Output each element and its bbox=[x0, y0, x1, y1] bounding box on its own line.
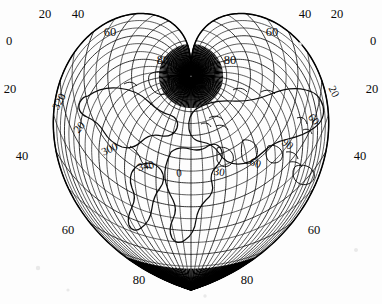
latitude-label-left-6: 40 bbox=[16, 149, 29, 163]
latitude-label-left-7: 60 bbox=[62, 223, 75, 237]
latitude-label-right-8: 80 bbox=[241, 273, 254, 287]
latitude-label-left-3: 60 bbox=[104, 25, 117, 39]
latitude-label-left-2: 0 bbox=[6, 34, 12, 48]
latitude-label-right-3: 0 bbox=[370, 34, 376, 48]
latitude-label-left-5: 80 bbox=[157, 53, 170, 67]
latitude-label-left-8: 80 bbox=[133, 273, 146, 287]
latitude-label-left-4: 20 bbox=[4, 82, 17, 96]
latitude-label-left-0: 20 bbox=[39, 7, 52, 21]
latitude-label-right-7: 60 bbox=[308, 223, 321, 237]
latitude-label-right-5: 20 bbox=[366, 82, 379, 96]
latitude-label-right-4: 80 bbox=[224, 53, 237, 67]
latitude-label-right-1: 20 bbox=[331, 7, 344, 21]
latitude-label-left-1: 40 bbox=[72, 7, 85, 21]
map-figure: 2040060208040608040206008020406080 32020… bbox=[0, 0, 382, 304]
latitude-label-right-6: 40 bbox=[354, 149, 367, 163]
meridian-label-30-6: 30 bbox=[213, 165, 226, 178]
latitude-label-right-2: 60 bbox=[266, 25, 279, 39]
latitude-label-right-0: 40 bbox=[299, 7, 312, 21]
